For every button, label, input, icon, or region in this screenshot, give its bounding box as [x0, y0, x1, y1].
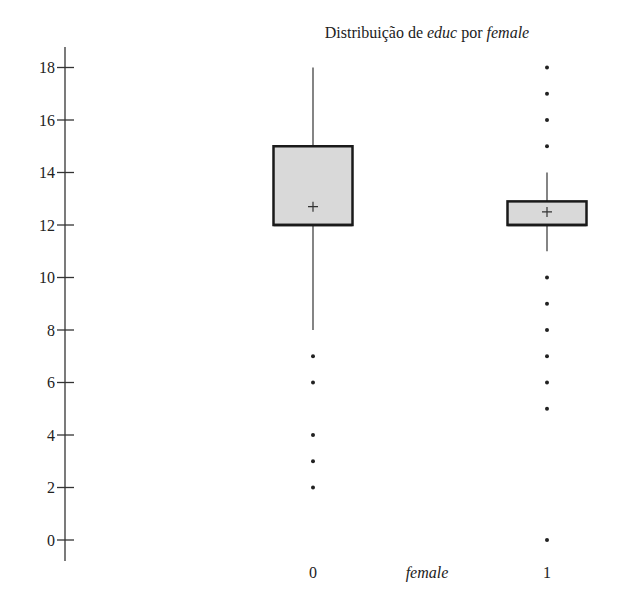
y-tick-label: 16	[39, 112, 55, 129]
outlier-point	[311, 354, 315, 358]
y-tick-label: 10	[39, 269, 55, 286]
outlier-point	[545, 381, 549, 385]
box-group-1	[508, 66, 587, 543]
outlier-point	[545, 538, 549, 542]
outlier-point	[545, 276, 549, 280]
box-group-0	[274, 68, 353, 490]
y-tick-label: 14	[39, 164, 55, 181]
y-tick-label: 8	[47, 322, 55, 339]
y-tick-label: 18	[39, 59, 55, 76]
outlier-point	[545, 407, 549, 411]
outlier-point	[545, 302, 549, 306]
x-axis: female 01	[309, 564, 551, 582]
y-tick-label: 4	[47, 427, 55, 444]
outlier-point	[545, 354, 549, 358]
iqr-box	[274, 146, 353, 225]
outlier-point	[545, 118, 549, 122]
outlier-point	[311, 381, 315, 385]
outlier-point	[545, 328, 549, 332]
outlier-point	[311, 459, 315, 463]
outlier-point	[545, 66, 549, 70]
y-axis: 024681012141618	[39, 47, 74, 561]
y-tick-label: 0	[47, 532, 55, 549]
chart-title: Distribuição de educ por female	[325, 24, 529, 42]
x-axis-label: female	[406, 564, 449, 582]
y-tick-label: 6	[47, 374, 55, 391]
outlier-point	[545, 92, 549, 96]
x-category-label: 1	[543, 564, 551, 581]
x-category-label: 0	[309, 564, 317, 581]
outlier-point	[545, 144, 549, 148]
box-plots	[274, 66, 587, 543]
boxplot-chart: Distribuição de educ por female 02468101…	[0, 0, 617, 610]
y-tick-label: 2	[47, 479, 55, 496]
y-tick-label: 12	[39, 217, 55, 234]
outlier-point	[311, 433, 315, 437]
outlier-point	[311, 486, 315, 490]
